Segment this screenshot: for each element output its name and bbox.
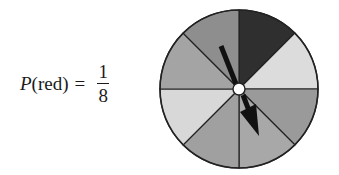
event-label: red	[38, 73, 62, 95]
close-paren: )	[62, 73, 68, 95]
spinner-wheel	[150, 0, 339, 175]
fraction: 1 8	[97, 62, 109, 105]
probability-function: P	[20, 73, 32, 95]
spinner-hub	[233, 83, 245, 95]
equals-sign: =	[75, 73, 86, 95]
probability-formula: P(red) = 1 8	[20, 62, 109, 105]
fraction-denominator: 8	[99, 84, 109, 105]
fraction-numerator: 1	[99, 62, 109, 83]
